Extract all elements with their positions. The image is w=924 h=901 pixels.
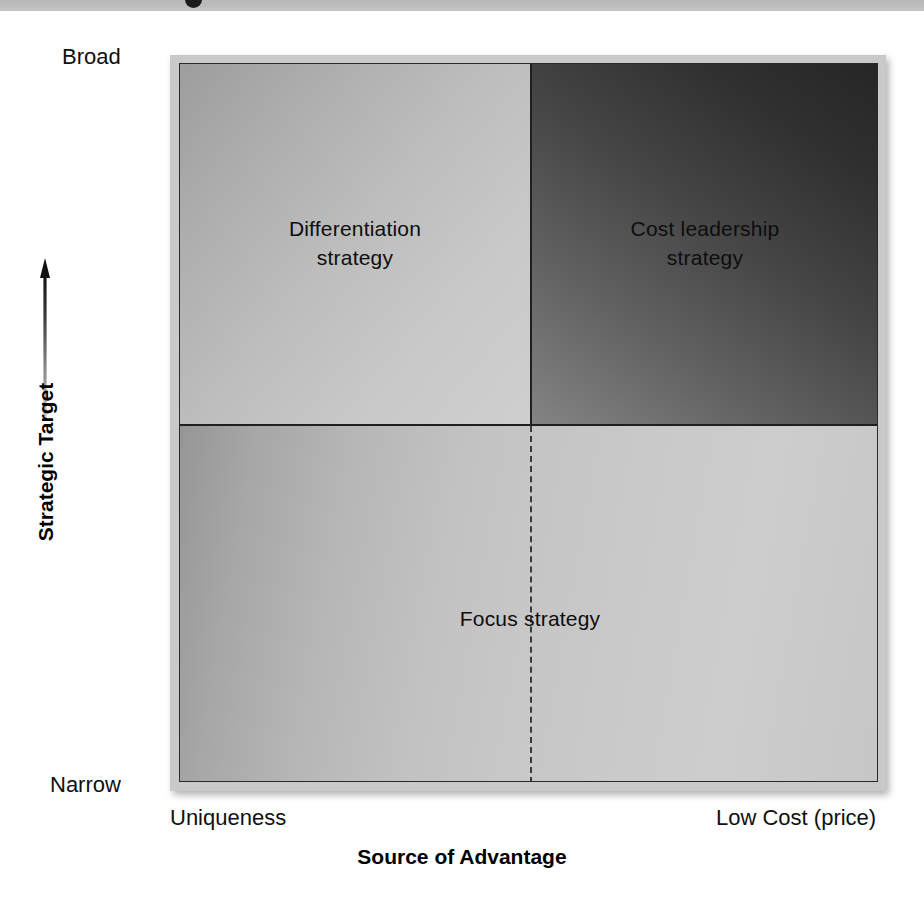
strategy-matrix: Differentiation strategy Cost leadership… bbox=[170, 55, 886, 791]
x-axis-tick-low-cost: Low Cost (price) bbox=[716, 805, 876, 831]
y-axis-title: Strategic Target bbox=[34, 352, 58, 572]
matrix-plot-area: Differentiation strategy Cost leadership… bbox=[179, 63, 878, 782]
y-axis-group: Strategic Target bbox=[14, 250, 74, 650]
quadrant-label-cost-leadership: Cost leadership strategy bbox=[580, 214, 830, 272]
y-axis-tick-narrow: Narrow bbox=[50, 772, 121, 798]
top-banner-band bbox=[0, 0, 924, 11]
vertical-divider-solid bbox=[530, 64, 532, 425]
y-axis-tick-broad: Broad bbox=[62, 44, 121, 70]
quadrant-label-focus: Focus strategy bbox=[415, 604, 645, 633]
x-axis-title: Source of Advantage bbox=[0, 845, 924, 869]
quadrant-label-differentiation: Differentiation strategy bbox=[240, 214, 470, 272]
x-axis-tick-uniqueness: Uniqueness bbox=[170, 805, 286, 831]
horizontal-divider bbox=[180, 424, 878, 426]
bullet-glyph-icon bbox=[185, 0, 202, 8]
